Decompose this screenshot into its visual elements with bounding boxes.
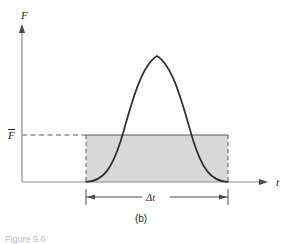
average-force-shaded-rect bbox=[86, 135, 228, 182]
y-axis-label: F bbox=[20, 9, 28, 21]
figure-caption-partial: Figure 9.6 bbox=[5, 234, 46, 244]
figure-canvas: F t F Δt (b) Figure 9.6 bbox=[0, 0, 297, 244]
delta-t-label: Δt bbox=[145, 192, 156, 203]
x-axis-label: t bbox=[276, 176, 280, 188]
panel-label: (b) bbox=[135, 213, 147, 224]
x-axis-arrowhead-icon bbox=[259, 179, 268, 185]
average-force-tick-label-group: F bbox=[7, 129, 15, 141]
impulse-force-time-figure: F t F Δt (b) Figure 9.6 bbox=[0, 0, 297, 244]
delta-t-left-arrowhead-icon bbox=[87, 194, 95, 199]
delta-t-right-arrowhead-icon bbox=[219, 194, 227, 199]
average-force-tick-label: F bbox=[7, 129, 15, 141]
y-axis-arrowhead-icon bbox=[19, 24, 25, 33]
